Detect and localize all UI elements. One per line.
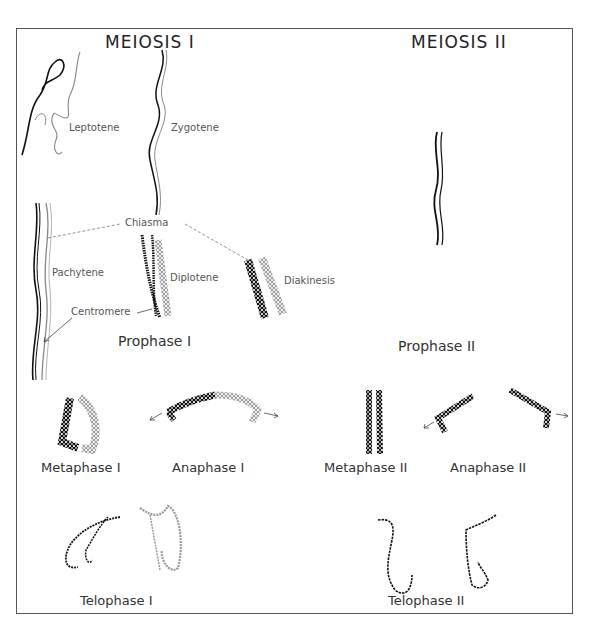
label-diplotene: Diplotene	[170, 272, 218, 283]
anaphase1-chromosomes	[150, 395, 278, 422]
label-chiasma: Chiasma	[125, 217, 168, 228]
label-metaphase1: Metaphase I	[41, 460, 120, 475]
label-prophase1: Prophase I	[118, 333, 191, 349]
label-pachytene: Pachytene	[52, 267, 104, 278]
label-diakinesis: Diakinesis	[284, 275, 335, 286]
label-telophase1: Telophase I	[80, 593, 153, 608]
leptotene-chromosomes	[22, 52, 80, 155]
meiosis2-title: MEIOSIS II	[411, 32, 507, 52]
label-centromere: Centromere	[71, 306, 130, 317]
chromosome-illustrations	[0, 0, 598, 642]
zygotene-chromosomes	[149, 50, 167, 215]
label-prophase2: Prophase II	[398, 338, 475, 354]
label-leptotene: Leptotene	[69, 122, 120, 133]
chiasma-pointers	[48, 224, 248, 260]
metaphase1-chromosomes	[62, 397, 96, 450]
telophase1-chromosomes	[66, 506, 181, 570]
prophase2-chromosomes	[434, 132, 443, 245]
label-metaphase2: Metaphase II	[324, 460, 407, 475]
metaphase2-chromosomes	[369, 390, 380, 454]
meiosis1-title: MEIOSIS I	[105, 32, 195, 52]
label-anaphase1: Anaphase I	[172, 460, 244, 475]
anaphase2-chromosomes	[424, 390, 568, 432]
label-anaphase2: Anaphase II	[450, 460, 526, 475]
diplotene-chromosomes	[142, 235, 168, 318]
pachytene-chromosomes	[33, 203, 52, 380]
label-zygotene: Zygotene	[171, 122, 219, 133]
telophase2-chromosomes	[378, 515, 496, 593]
diakinesis-chromosomes	[248, 258, 283, 318]
label-telophase2: Telophase II	[388, 593, 464, 608]
